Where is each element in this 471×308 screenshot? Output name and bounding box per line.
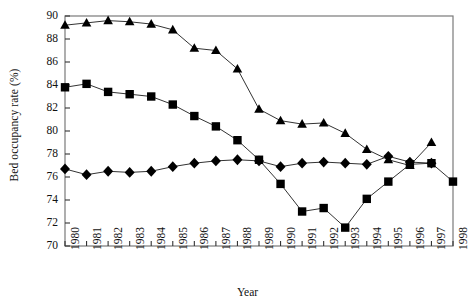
x-tick-label: 1984 [156, 227, 168, 250]
x-tick-label: 1987 [221, 227, 233, 250]
data-point-diamond [82, 169, 92, 180]
x-tick-label: 1998 [458, 227, 470, 250]
data-point-diamond [189, 158, 199, 169]
data-point-triangle [340, 128, 350, 137]
data-point-square [384, 177, 392, 185]
x-tick-label: 1991 [307, 227, 319, 250]
x-tick-label: 1992 [329, 227, 341, 250]
x-tick-label: 1985 [178, 227, 190, 250]
data-point-square [319, 204, 327, 212]
x-tick-label: 1997 [436, 227, 448, 250]
y-tick-label: 82 [28, 102, 58, 114]
x-tick-label: 1982 [113, 227, 125, 250]
data-point-square [104, 88, 112, 96]
x-tick-label: 1993 [350, 227, 362, 250]
data-point-diamond [319, 157, 329, 168]
data-point-square [61, 83, 69, 91]
y-tick-label: 80 [28, 125, 58, 137]
data-point-square [449, 177, 457, 185]
data-point-triangle [103, 16, 113, 25]
y-tick-label: 70 [28, 240, 58, 252]
data-point-triangle [125, 17, 135, 26]
data-point-square [125, 90, 133, 98]
data-point-triangle [254, 104, 264, 113]
data-point-square [233, 136, 241, 144]
data-point-triangle [362, 144, 372, 153]
data-point-square [298, 207, 306, 215]
data-point-diamond [383, 151, 393, 162]
x-tick-label: 1986 [199, 227, 211, 250]
data-point-triangle [233, 64, 243, 73]
x-tick-label: 1989 [264, 227, 276, 250]
data-point-diamond [125, 167, 135, 178]
plot-area [0, 0, 471, 308]
data-point-diamond [362, 159, 372, 170]
data-point-diamond [168, 161, 178, 172]
y-tick-label: 78 [28, 148, 58, 160]
x-tick-label: 1981 [92, 227, 104, 250]
data-point-square [147, 92, 155, 100]
x-tick-label: 1996 [415, 227, 427, 250]
y-tick-label: 74 [28, 194, 58, 206]
x-tick-label: 1990 [286, 227, 298, 250]
y-tick-label: 72 [28, 217, 58, 229]
data-point-triangle [427, 138, 437, 147]
data-point-diamond [146, 166, 156, 177]
data-point-triangle [190, 43, 200, 52]
x-tick-label: 1995 [393, 227, 405, 250]
y-tick-label: 84 [28, 79, 58, 91]
data-point-diamond [276, 161, 286, 172]
data-point-diamond [211, 156, 221, 167]
x-tick-label: 1983 [135, 227, 147, 250]
data-point-square [169, 100, 177, 108]
y-tick-label: 90 [28, 10, 58, 22]
data-point-square [190, 112, 198, 120]
data-point-diamond [103, 166, 113, 177]
y-tick-label: 86 [28, 56, 58, 68]
x-axis-label: Year [0, 286, 471, 298]
data-point-square [276, 180, 284, 188]
x-tick-label: 1988 [242, 227, 254, 250]
data-point-square [82, 80, 90, 88]
x-tick-label: 1980 [70, 227, 82, 250]
data-point-diamond [340, 158, 350, 169]
y-axis-label: Bed occupancy rate (%) [2, 0, 24, 250]
data-point-diamond [297, 158, 307, 169]
data-point-diamond [60, 164, 70, 175]
data-point-square [363, 195, 371, 203]
data-point-triangle [319, 118, 329, 127]
y-tick-label: 88 [28, 33, 58, 45]
y-tick-label: 76 [28, 171, 58, 183]
x-tick-label: 1994 [372, 227, 384, 250]
bed-occupancy-chart: Bed occupancy rate (%) Year 707274767880… [0, 0, 471, 308]
data-point-diamond [232, 154, 242, 165]
plot-frame [65, 16, 453, 246]
data-point-square [212, 122, 220, 130]
data-point-triangle [276, 116, 286, 125]
